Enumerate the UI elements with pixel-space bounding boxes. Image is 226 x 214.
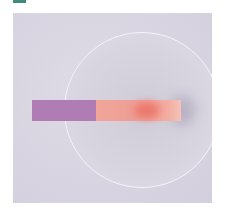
strip-dry-end <box>32 100 96 121</box>
figure-marker <box>13 0 26 3</box>
photo <box>13 13 212 203</box>
reaction-spot <box>134 102 160 119</box>
